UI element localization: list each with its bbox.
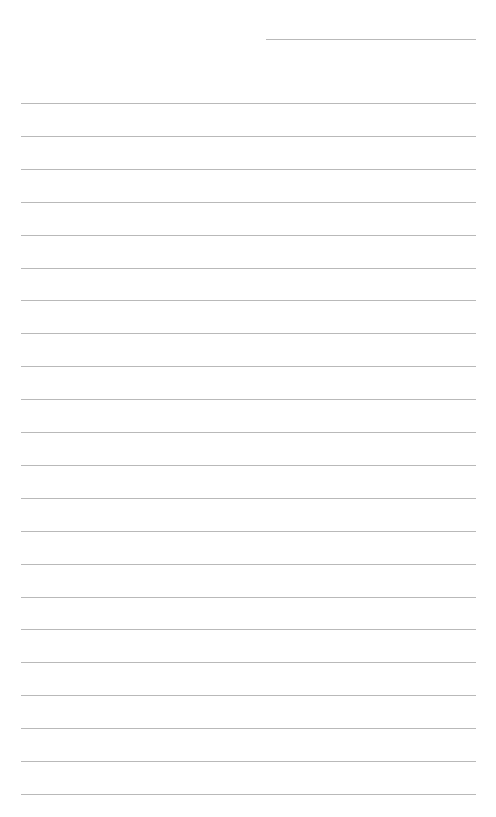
ruled-line [21,531,476,532]
ruled-line [21,564,476,565]
ruled-line [21,136,476,137]
ruled-line [21,662,476,663]
ruled-line [21,169,476,170]
ruled-line [21,202,476,203]
ruled-line [21,597,476,598]
header-rule-line [266,39,476,40]
ruled-line [21,333,476,334]
ruled-line [21,794,476,795]
ruled-line [21,465,476,466]
ruled-line [21,103,476,104]
ruled-line [21,728,476,729]
ruled-line [21,235,476,236]
ruled-line [21,366,476,367]
ruled-line [21,498,476,499]
ruled-line [21,432,476,433]
ruled-line [21,695,476,696]
ruled-line [21,300,476,301]
ruled-line [21,399,476,400]
ruled-line [21,268,476,269]
ruled-line [21,629,476,630]
lined-page [0,0,496,817]
ruled-line [21,761,476,762]
